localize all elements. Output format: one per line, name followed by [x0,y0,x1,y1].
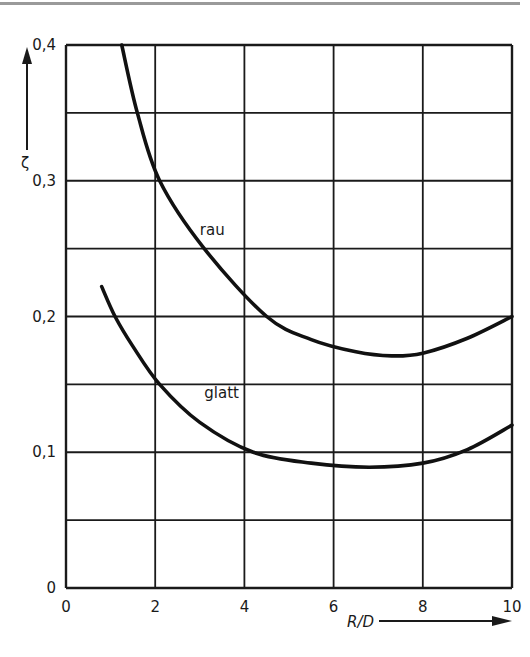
y-tick-label: 0,3 [32,172,56,190]
x-axis-title: R/D [347,613,374,631]
curves [102,45,512,467]
y-axis-title: ζ [21,154,29,172]
y-tick-label: 0,2 [32,308,56,326]
y-axis-arrow-icon [22,47,32,150]
x-tick-label: 4 [240,598,250,616]
y-tick-label: 0 [46,579,56,597]
grid-lines [66,45,512,588]
curve-label-rau: rau [200,221,225,239]
x-tick-label: 2 [150,598,160,616]
x-tick-label: 6 [329,598,339,616]
curve-rau [122,45,512,356]
x-tick-label: 0 [61,598,71,616]
y-tick-label: 0,4 [32,36,56,54]
x-axis-arrow-icon [379,616,512,626]
x-tick-label: 8 [418,598,428,616]
x-tick-label: 10 [502,598,521,616]
curve-label-glatt: glatt [204,384,239,402]
chart: 024681000,10,20,30,4 rauglatt ζ R/D [0,0,530,657]
y-tick-label: 0,1 [32,443,56,461]
curve-glatt [102,287,512,468]
